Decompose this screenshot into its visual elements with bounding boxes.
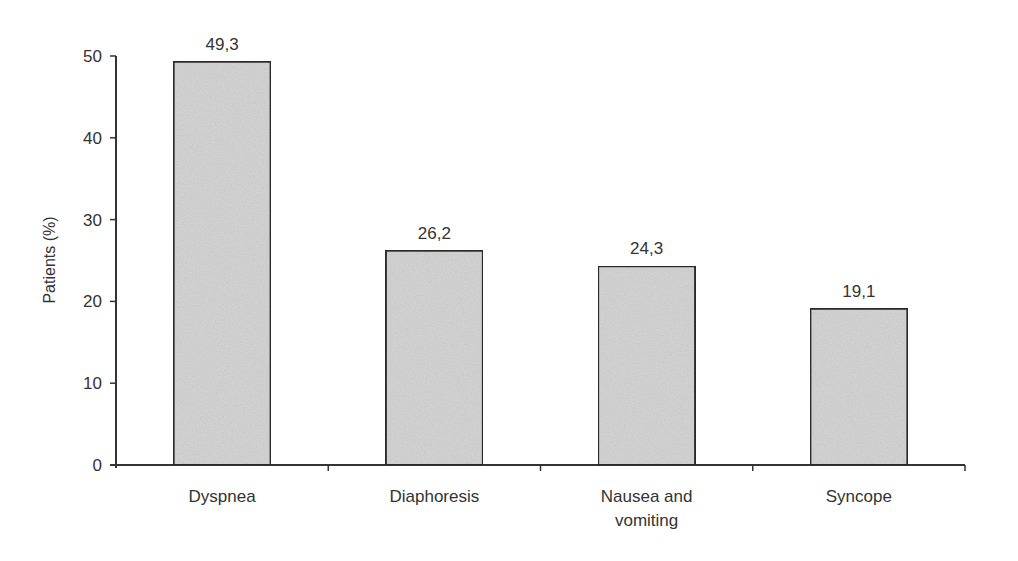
bar-value-label: 26,2 (418, 224, 451, 243)
bar-value-label: 19,1 (842, 282, 875, 301)
y-axis-title: Patients (%) (41, 216, 58, 303)
x-category-label: vomiting (615, 511, 678, 530)
y-tick-label: 10 (83, 374, 102, 393)
x-category-label: Nausea and (601, 487, 693, 506)
bar-syncope: 19,1Syncope (810, 282, 907, 506)
bar-diaphoresis: 26,2Diaphoresis (386, 224, 483, 506)
bar-chart: 01020304050 49,3Dyspnea26,2Diaphoresis24… (0, 0, 1018, 561)
x-category-label: Syncope (826, 487, 892, 506)
bars: 49,3Dyspnea26,2Diaphoresis24,3Nausea and… (174, 35, 908, 530)
y-tick-label: 20 (83, 292, 102, 311)
y-tick-label: 0 (93, 456, 102, 475)
bar-value-label: 24,3 (630, 239, 663, 258)
y-tick-label: 30 (83, 211, 102, 230)
x-category-label: Diaphoresis (389, 487, 479, 506)
x-category-label: Dyspnea (189, 487, 257, 506)
y-axis: 01020304050 (83, 47, 116, 475)
bar-value-label: 49,3 (206, 35, 239, 54)
y-tick-label: 40 (83, 129, 102, 148)
bar-nausea-and-vomiting: 24,3Nausea andvomiting (598, 239, 695, 530)
y-tick-label: 50 (83, 47, 102, 66)
bar-dyspnea: 49,3Dyspnea (174, 35, 271, 506)
